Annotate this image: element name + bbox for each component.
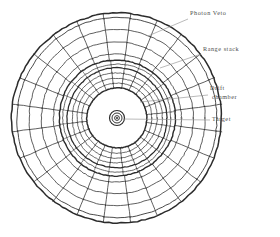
leader-lines	[123, 19, 210, 120]
detector-drawing	[11, 13, 222, 224]
label-target: Target	[212, 115, 231, 124]
label-drift-chamber-line1: Drift	[210, 84, 225, 93]
label-drift-chamber-line2: chamber	[212, 93, 237, 102]
label-photon-veto: Photon Veto	[190, 9, 226, 18]
label-range-stack: Range stack	[203, 45, 239, 54]
detector-cross-section-figure	[0, 0, 280, 237]
